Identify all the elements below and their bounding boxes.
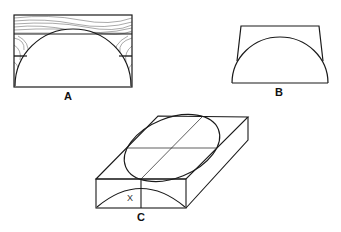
label-b: B <box>275 86 283 98</box>
dimension-label-x: X <box>127 193 133 203</box>
panel-b <box>232 26 328 83</box>
panel-c <box>96 101 248 208</box>
semicircle-profile-b <box>232 37 328 83</box>
label-a: A <box>64 90 72 102</box>
right-face-c <box>186 117 248 208</box>
trapezoid-outline-b <box>237 26 323 61</box>
panel-a <box>14 15 132 87</box>
diagram-canvas: A B X C <box>0 0 341 232</box>
label-c: C <box>137 211 145 223</box>
